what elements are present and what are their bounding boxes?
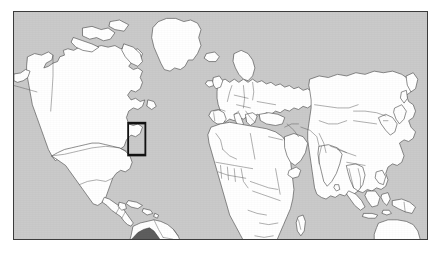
world-map — [14, 12, 427, 239]
java — [363, 213, 378, 218]
world-locator-figure — [0, 0, 441, 254]
map-frame — [13, 11, 428, 240]
